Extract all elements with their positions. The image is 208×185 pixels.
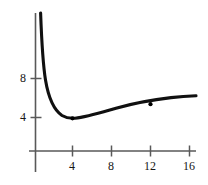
x-tick-label-4: 4 <box>69 160 75 172</box>
data-point-minimum <box>70 116 74 120</box>
plot-canvas <box>0 0 208 185</box>
chart-figure: 8 4 4 8 12 16 <box>0 0 208 185</box>
curve-path <box>41 13 196 118</box>
x-tick-label-16: 16 <box>183 160 195 172</box>
data-point-marked <box>148 102 152 106</box>
x-tick-label-12: 12 <box>144 160 156 172</box>
y-tick-label-8: 8 <box>14 72 26 84</box>
x-tick-label-8: 8 <box>108 160 114 172</box>
y-tick-label-4: 4 <box>14 111 26 123</box>
